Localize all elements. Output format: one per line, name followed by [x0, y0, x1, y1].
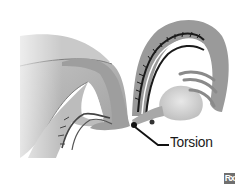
torsion-illustration: [0, 0, 248, 190]
rx-badge: Rx: [224, 173, 235, 184]
torsion-label: Torsion: [170, 134, 213, 149]
